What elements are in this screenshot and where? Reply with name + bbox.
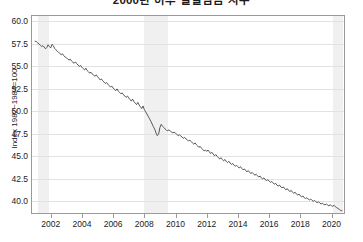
y-tick-label: 55.0	[11, 62, 28, 71]
series-line-real-wage-index	[35, 41, 342, 211]
series-layer	[32, 16, 344, 213]
x-tick-mark	[269, 214, 270, 218]
y-tick-label: 47.5	[11, 130, 28, 139]
x-tick-label: 2014	[228, 219, 247, 229]
x-tick-label: 2012	[197, 219, 216, 229]
x-tick-label: 2006	[104, 219, 123, 229]
x-tick-mark	[51, 214, 52, 218]
x-tick-label: 2020	[322, 219, 341, 229]
x-tick-mark	[207, 214, 208, 218]
y-tick-label: 40.0	[11, 197, 28, 206]
x-tick-mark	[144, 214, 145, 218]
x-tick-label: 2002	[41, 219, 60, 229]
y-tick-label: 52.5	[11, 85, 28, 94]
y-tick-label: 57.5	[11, 40, 28, 49]
x-tick-mark	[332, 214, 333, 218]
plot-area	[31, 15, 345, 214]
x-tick-label: 2018	[291, 219, 310, 229]
x-tick-mark	[82, 214, 83, 218]
y-tick-label: 50.0	[11, 107, 28, 116]
x-tick-label: 2010	[166, 219, 185, 229]
x-tick-mark	[238, 214, 239, 218]
y-tick-label: 45.0	[11, 152, 28, 161]
x-tick-label: 2004	[72, 219, 91, 229]
x-tick-mark	[176, 214, 177, 218]
plot-inner	[32, 16, 344, 213]
x-tick-mark	[300, 214, 301, 218]
chart-title: 2000년 이후 실질임금 지수	[0, 0, 363, 7]
y-tick-label: 60.0	[11, 17, 28, 26]
y-tick-label: 42.5	[11, 175, 28, 184]
chart-title-clip: 2000년 이후 실질임금 지수	[0, 0, 363, 9]
x-tick-label: 2016	[260, 219, 279, 229]
x-tick-mark	[113, 214, 114, 218]
x-tick-label: 2008	[135, 219, 154, 229]
chart-canvas: 2000년 이후 실질임금 지수 Index 1982~1984=100 60.…	[0, 0, 363, 242]
